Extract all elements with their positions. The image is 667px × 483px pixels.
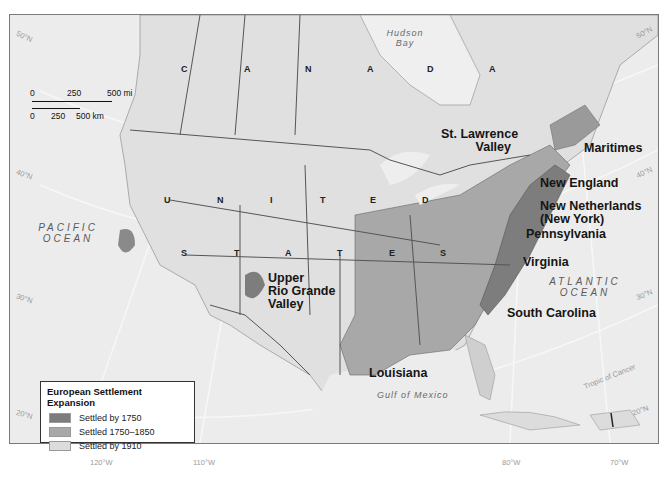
label-canada-c: C [181,64,188,74]
scale-bar: 0 250 500 mi 0 250 500 km [32,88,142,128]
label-atlantic-ocean: ATLANTIC OCEAN [545,276,625,298]
label-south-carolina: South Carolina [507,307,596,320]
swatch-settled-1910 [49,441,71,451]
label-st-lawrence-valley: St. Lawrence Valley [441,128,511,154]
label-gulf-of-mexico: Gulf of Mexico [377,390,449,400]
legend-title: European Settlement Expansion [47,386,188,408]
scale-km-500: 500 km [76,111,104,121]
legend: European Settlement Expansion Settled by… [40,381,195,443]
lon-80w: 80°W [502,458,520,467]
label-us-a: A [285,248,292,258]
scale-mi-500: 500 mi [107,88,133,98]
label-pennsylvania: Pennsylvania [526,228,606,241]
label-maritimes: Maritimes [584,142,642,155]
label-us-d: D [422,195,429,205]
lon-110w: 110°W [193,458,215,467]
label-us-u: U [164,195,171,205]
label-upper-rio-grande-valley: Upper Rio Grande Valley [268,272,335,311]
swatch-settled-1750 [49,413,71,423]
label-canada-a3: A [489,64,496,74]
label-new-netherlands: New Netherlands (New York) [540,200,641,226]
scale-mi-250: 250 [67,88,81,98]
label-canada-a2: A [367,64,374,74]
lon-120w: 120°W [90,458,113,467]
scale-mi-0: 0 [30,88,35,98]
label-new-england: New England [540,177,618,190]
label-virginia: Virginia [523,256,569,269]
label-louisiana: Louisiana [369,367,427,380]
swatch-settled-1750-1850 [49,427,71,437]
label-canada-a1: A [244,64,251,74]
scale-km-250: 250 [51,111,65,121]
label-us-s1: S [181,248,187,258]
legend-item-1750: Settled by 1750 [47,411,188,425]
label-us-t2: T [234,248,240,258]
legend-item-1910: Settled by 1910 [47,439,188,453]
label-hudson-bay: Hudson Bay [375,28,435,48]
label-canada-d: D [427,64,434,74]
label-us-t1: T [320,195,326,205]
label-us-s2: S [440,248,446,258]
scale-km-0: 0 [30,111,35,121]
label-us-i: I [270,195,273,205]
label-us-t3: T [337,248,343,258]
label-us-e2: E [389,248,395,258]
label-us-n: N [217,195,224,205]
label-pacific-ocean: PACIFIC OCEAN [28,222,108,244]
label-canada-n: N [305,64,312,74]
lon-70w: 70°W [610,458,628,467]
label-us-e1: E [370,195,376,205]
legend-item-1750-1850: Settled 1750–1850 [47,425,188,439]
